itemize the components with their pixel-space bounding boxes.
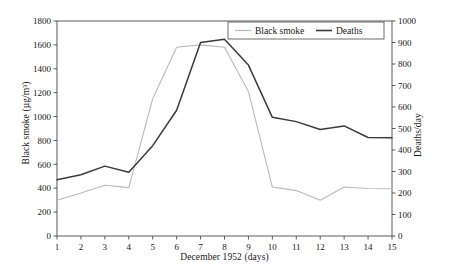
y-right-tick-label: 700 — [398, 81, 412, 91]
y-right-tick-label: 400 — [398, 145, 412, 155]
chart-container: 020040060080010001200140016001800 010020… — [0, 0, 449, 273]
y-left-tick-label: 200 — [38, 207, 52, 217]
x-tick-label: 5 — [150, 242, 155, 252]
y-right-tick-label: 300 — [398, 167, 412, 177]
y-left-tick-label: 1600 — [33, 40, 52, 50]
legend-label-deaths: Deaths — [336, 26, 363, 36]
x-tick-label: 2 — [79, 242, 84, 252]
x-tick-label: 12 — [316, 242, 325, 252]
x-tick-label: 3 — [103, 242, 108, 252]
x-tick-label: 15 — [388, 242, 398, 252]
chart-legend: Black smokeDeaths — [228, 22, 384, 39]
line-chart: 020040060080010001200140016001800 010020… — [0, 0, 449, 273]
y-right-tick-label: 800 — [398, 59, 412, 69]
y-left-tick-label: 1200 — [33, 88, 52, 98]
y-left-tick-label: 400 — [38, 183, 52, 193]
y-right-tick-label: 900 — [398, 38, 412, 48]
y-right-tick-label: 500 — [398, 124, 412, 134]
y-right-tick-label: 200 — [398, 188, 412, 198]
y-right-tick-label: 100 — [398, 210, 412, 220]
y-left-tick-label: 1800 — [33, 16, 52, 26]
y-left-tick-label: 800 — [38, 136, 52, 146]
y-left-tick-label: 1000 — [33, 112, 52, 122]
y-right-tick-label: 600 — [398, 102, 412, 112]
y-left-tick-label: 600 — [38, 160, 52, 170]
x-tick-label: 8 — [222, 242, 227, 252]
x-axis-title: December 1952 (days) — [0, 252, 449, 262]
x-tick-label: 11 — [292, 242, 301, 252]
y-right-tick-label: 1000 — [398, 16, 417, 26]
x-tick-label: 10 — [268, 242, 278, 252]
x-tick-label: 9 — [246, 242, 251, 252]
x-tick-label: 4 — [127, 242, 132, 252]
chart-background — [0, 0, 449, 273]
y-left-tick-label: 0 — [47, 231, 52, 241]
x-tick-label: 6 — [174, 242, 179, 252]
y-right-tick-label: 0 — [398, 231, 403, 241]
y-axis-right-title: Deaths/day — [413, 85, 423, 185]
legend-label-black-smoke: Black smoke — [255, 26, 304, 36]
y-left-tick-label: 1400 — [33, 64, 52, 74]
x-tick-label: 1 — [55, 242, 60, 252]
y-axis-left-title: Black smoke (µg/m³) — [21, 43, 31, 203]
x-tick-label: 14 — [364, 242, 374, 252]
x-tick-label: 7 — [198, 242, 203, 252]
x-tick-label: 13 — [340, 242, 350, 252]
